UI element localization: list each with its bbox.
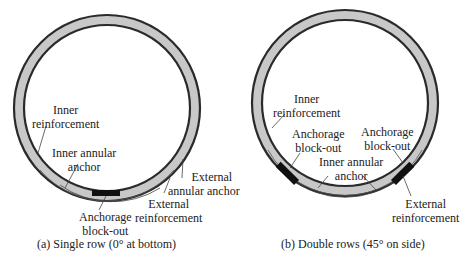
label-line: Inner annular xyxy=(319,155,383,169)
label-external-reinforcement-a: External reinforcement xyxy=(135,197,202,225)
label-anchorage-blockout-a: Anchorage block-out xyxy=(79,210,132,238)
caption-a: (a) Single row (0° at bottom) xyxy=(37,237,176,252)
label-line: Inner xyxy=(273,92,340,106)
anchorage-blockout xyxy=(92,190,120,196)
label-line: block-out xyxy=(361,139,414,153)
label-inner-reinforcement-b: Inner reinforcement xyxy=(273,92,340,120)
label-inner-reinforcement-a: Inner reinforcement xyxy=(32,103,99,131)
label-line: reinforcement xyxy=(392,211,459,225)
label-line: Anchorage xyxy=(79,210,132,224)
label-external-reinforcement-b: External reinforcement xyxy=(392,197,459,225)
label-line: anchor xyxy=(319,169,383,183)
label-line: block-out xyxy=(79,224,132,238)
label-line: External xyxy=(135,197,202,211)
label-line: External xyxy=(168,170,240,184)
label-line: anchor xyxy=(52,160,116,174)
label-inner-annular-anchor-a: Inner annular anchor xyxy=(52,146,116,174)
label-anchorage-blockout-right-b: Anchorage block-out xyxy=(361,125,414,153)
label-line: Inner xyxy=(32,103,99,117)
label-line: Anchorage xyxy=(292,127,345,141)
label-anchorage-blockout-left-b: Anchorage block-out xyxy=(292,127,345,155)
label-inner-annular-anchor-b: Inner annular anchor xyxy=(319,155,383,183)
label-line: reinforcement xyxy=(273,106,340,120)
label-line: Inner annular xyxy=(52,146,116,160)
label-external-annular-anchor-a: External annular anchor xyxy=(168,170,240,198)
label-line: reinforcement xyxy=(135,211,202,225)
label-line: block-out xyxy=(292,141,345,155)
label-line: External xyxy=(392,197,459,211)
label-line: annular anchor xyxy=(168,184,240,198)
label-line: Anchorage xyxy=(361,125,414,139)
caption-b: (b) Double rows (45° on side) xyxy=(281,237,425,252)
label-line: reinforcement xyxy=(32,117,99,131)
